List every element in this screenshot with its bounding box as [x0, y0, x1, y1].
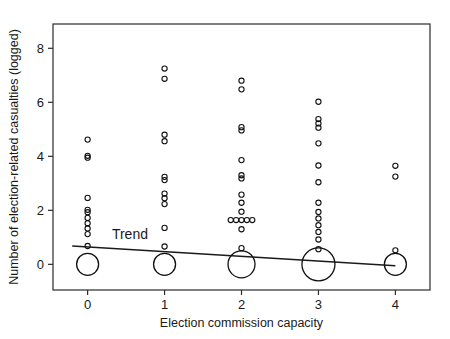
zero-count-bubble [384, 253, 406, 275]
data-point [239, 176, 244, 181]
zero-count-bubble [77, 253, 99, 275]
data-point [162, 225, 167, 230]
data-point [162, 177, 167, 182]
data-point [393, 248, 398, 253]
zero-count-bubble [228, 251, 255, 278]
x-tick-label: 0 [84, 297, 91, 312]
data-point [162, 76, 167, 81]
data-point [239, 227, 244, 232]
data-point [316, 216, 321, 221]
data-point [85, 231, 90, 236]
zero-count-bubble [302, 248, 335, 281]
data-point [316, 180, 321, 185]
data-point [162, 66, 167, 71]
data-point [85, 221, 90, 226]
y-tick-label: 0 [37, 257, 44, 272]
data-point [239, 87, 244, 92]
data-point [316, 200, 321, 205]
data-point [228, 217, 233, 222]
data-point [316, 237, 321, 242]
zero-count-bubble [154, 253, 176, 275]
scatter-plot-canvas: 0246801234Election commission capacityNu… [0, 0, 450, 339]
data-point [393, 163, 398, 168]
trend-line [72, 246, 395, 266]
data-point [316, 163, 321, 168]
data-point [239, 246, 244, 251]
y-tick-label: 8 [37, 41, 44, 56]
data-point [239, 209, 244, 214]
data-point [239, 78, 244, 83]
data-point [239, 192, 244, 197]
data-point [316, 141, 321, 146]
data-point [85, 137, 90, 142]
x-axis: 01234 [84, 290, 399, 312]
x-tick-label: 2 [238, 297, 245, 312]
y-tick-label: 2 [37, 203, 44, 218]
data-point [316, 209, 321, 214]
data-point [162, 139, 167, 144]
data-point [316, 99, 321, 104]
zero-count-bubbles-group [77, 248, 407, 281]
data-point [85, 226, 90, 231]
y-axis: 02468 [37, 41, 53, 272]
data-point [393, 174, 398, 179]
trend-annotation-label: Trend [112, 226, 148, 242]
data-point [162, 132, 167, 137]
data-point [239, 158, 244, 163]
data-point [162, 244, 167, 249]
data-point [85, 195, 90, 200]
data-point [234, 217, 239, 222]
data-point [250, 217, 255, 222]
data-point [316, 223, 321, 228]
y-tick-label: 4 [37, 149, 44, 164]
x-axis-title: Election commission capacity [160, 316, 324, 330]
y-axis-title: Number of election-related casualties (l… [7, 29, 21, 285]
data-point [162, 202, 167, 207]
x-tick-label: 1 [161, 297, 168, 312]
data-point [239, 200, 244, 205]
y-tick-label: 6 [37, 95, 44, 110]
data-point [244, 217, 249, 222]
chart-figure: 0246801234Election commission capacityNu… [0, 0, 450, 339]
data-point [239, 217, 244, 222]
data-point [85, 215, 90, 220]
x-tick-label: 3 [315, 297, 322, 312]
data-point [239, 128, 244, 133]
x-tick-label: 4 [392, 297, 399, 312]
data-point [316, 229, 321, 234]
